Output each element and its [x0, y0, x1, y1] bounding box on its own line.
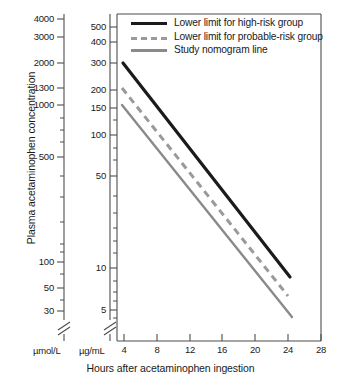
umol-minor-ticks [60, 118, 64, 300]
legend-swatch-dashed-gray-icon [131, 37, 167, 40]
chart-legend: Lower limit for high-risk group Lower li… [131, 17, 336, 58]
x-tick-marks [124, 334, 321, 341]
ugml-axis-unit-label: µg/mL [79, 345, 105, 356]
series-line-study-nomogram [122, 105, 292, 317]
umol-tick-label-500: 500 [6, 152, 54, 161]
series-line-probable-risk [122, 88, 288, 296]
umol-tick-label-4000: 4000 [6, 14, 54, 23]
ugml-minor-ticks [113, 120, 117, 318]
legend-label-high-risk: Lower limit for high-risk group [174, 17, 303, 28]
ugml-tick-label-400: 400 [62, 37, 106, 46]
ugml-tick-label-10: 10 [62, 263, 106, 272]
ugml-tick-label-100: 100 [62, 130, 106, 139]
ugml-tick-label-200: 200 [62, 85, 106, 94]
umol-tick-label-1300: 1300 [6, 83, 54, 92]
umol-tick-label-30: 30 [6, 306, 54, 315]
x-tick-label-24: 24 [276, 345, 300, 354]
ugml-tick-label-5: 5 [62, 305, 106, 314]
x-tick-label-16: 16 [210, 345, 234, 354]
x-tick-label-12: 12 [178, 345, 202, 354]
legend-item-probable-risk: Lower limit for probable-risk group [131, 31, 336, 45]
umol-tick-label-100: 100 [6, 257, 54, 266]
series-line-high-risk [123, 63, 290, 277]
legend-item-high-risk: Lower limit for high-risk group [131, 17, 336, 31]
nomogram-chart: Plasma acetaminophen concentration Hours… [0, 0, 341, 385]
ugml-tick-label-50: 50 [62, 171, 106, 180]
ugml-tick-label-500: 500 [62, 22, 106, 31]
x-tick-label-20: 20 [243, 345, 267, 354]
ugml-tick-label-300: 300 [62, 58, 106, 67]
umol-tick-label-2000: 2000 [6, 58, 54, 67]
legend-item-study-nomogram: Study nomogram line [131, 44, 336, 58]
ugml-axis-break-icon [104, 322, 116, 335]
umol-tick-label-3000: 3000 [6, 32, 54, 41]
legend-label-probable-risk: Lower limit for probable-risk group [174, 31, 323, 42]
umol-axis-break-icon [58, 322, 70, 335]
umol-tick-label-50: 50 [6, 283, 54, 292]
umol-tick-label-1000: 1000 [6, 100, 54, 109]
ugml-tick-marks [110, 27, 117, 310]
umol-axis-unit-label: µmol/L [33, 345, 61, 356]
legend-swatch-solid-gray-icon [131, 49, 167, 52]
ugml-tick-label-150: 150 [62, 103, 106, 112]
legend-label-study-nomogram: Study nomogram line [174, 44, 267, 55]
legend-swatch-solid-dark-icon [131, 22, 167, 25]
x-tick-label-28: 28 [309, 345, 333, 354]
x-tick-label-8: 8 [145, 345, 169, 354]
x-tick-label-4: 4 [112, 345, 136, 354]
